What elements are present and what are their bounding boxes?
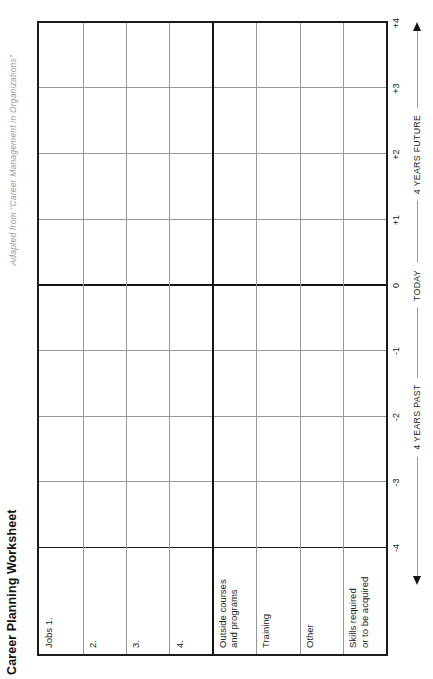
row-label-other: Other bbox=[304, 624, 316, 648]
worksheet-table: Jobs 1. 2. 3. 4. Outside courses and pro… bbox=[37, 21, 388, 656]
axis-label-future: 4 YEARS FUTURE bbox=[412, 108, 422, 201]
attribution-note: Adapted from “Career Management in Organ… bbox=[8, 55, 18, 266]
row-label-job-3: 3. bbox=[130, 640, 142, 648]
row-label-job-2: 2. bbox=[87, 640, 99, 648]
axis-line bbox=[417, 29, 418, 583]
row-label-job-4: 4. bbox=[174, 640, 186, 648]
row-label-outside-courses: Outside courses and programs bbox=[217, 579, 240, 648]
row-divider bbox=[300, 23, 301, 654]
axis-tick-label: 0 bbox=[391, 283, 401, 288]
axis-tick-label: -3 bbox=[391, 478, 401, 486]
page-title: Career Planning Worksheet bbox=[5, 509, 19, 675]
axis-tick-label: +2 bbox=[391, 149, 401, 159]
axis-tick-label: -4 bbox=[391, 544, 401, 552]
arrow-left-icon bbox=[413, 576, 421, 585]
row-divider bbox=[169, 23, 170, 654]
axis-tick-label: -1 bbox=[391, 347, 401, 355]
row-divider bbox=[83, 23, 84, 654]
row-divider bbox=[126, 23, 127, 654]
worksheet-page: Career Planning Worksheet Adapted from “… bbox=[0, 0, 433, 679]
axis-label-past: 4 YEARS PAST bbox=[412, 377, 422, 456]
row-label-jobs-1: Jobs 1. bbox=[43, 617, 55, 648]
axis-tick-label: +4 bbox=[391, 18, 401, 28]
axis-tick-label: -2 bbox=[391, 413, 401, 421]
arrow-right-icon bbox=[413, 22, 421, 31]
axis-tick-label: +1 bbox=[391, 215, 401, 225]
axis-tick-label: +3 bbox=[391, 83, 401, 93]
axis-label-today: TODAY bbox=[412, 263, 422, 308]
row-divider bbox=[343, 23, 344, 654]
jobs-section-divider bbox=[212, 23, 215, 654]
row-label-skills-required: Skills required or to be acquired bbox=[347, 577, 370, 648]
row-divider bbox=[256, 23, 257, 654]
row-label-training: Training bbox=[260, 614, 272, 648]
